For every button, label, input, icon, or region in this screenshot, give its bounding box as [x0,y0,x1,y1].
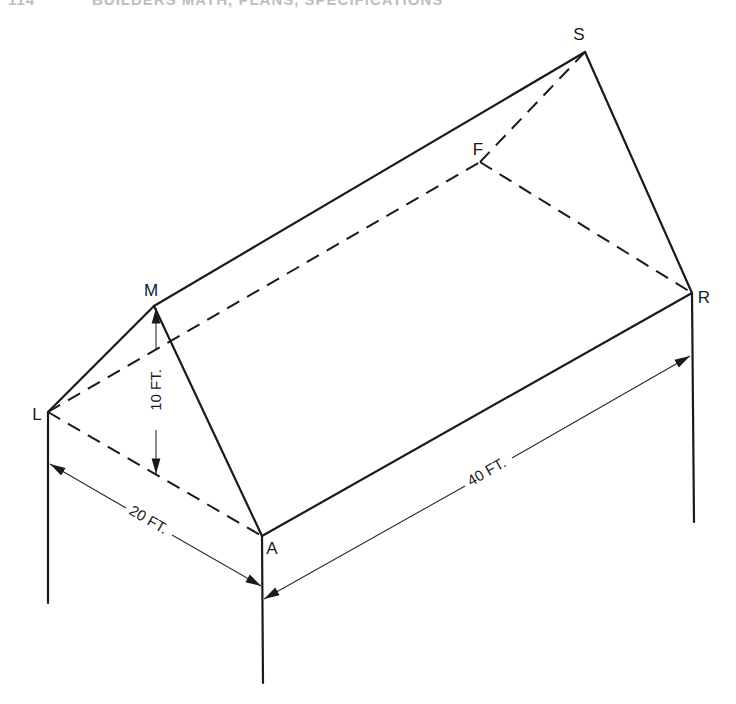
vertex-label-s: S [573,25,584,44]
dimension-rise: 10 FT. [147,308,164,474]
dimension-line-span-right [172,535,261,586]
dimension-label-span: 20 FT. [126,501,171,537]
hidden-line-fs [480,52,585,162]
vertex-label-f: F [473,140,483,159]
dimension-length: 40 FT. [264,356,690,599]
dimension-span: 20 FT. [50,464,261,586]
edge-sr [585,52,692,293]
ridge-line-ms [154,52,585,306]
dimension-line-length-left [264,486,465,599]
dimension-label-length: 40 FT. [464,453,509,489]
hidden-line-fr [480,162,692,293]
vertex-label-l: L [32,405,41,424]
wall-line-r [692,293,694,522]
dimension-line-span-left [50,464,126,508]
vertex-label-a: A [266,539,278,558]
wall-line-a [262,536,263,683]
hidden-line-lf [48,162,480,412]
vertex-label-m: M [144,281,158,300]
dimension-label-rise: 10 FT. [147,369,164,411]
dimension-line-length-right [512,356,690,458]
vertex-label-r: R [698,288,710,307]
eave-line-ar [262,293,692,536]
solid-edges [48,52,694,683]
roof-diagram: 10 FT. 20 FT. 40 FT. S F R M L A [0,0,736,704]
